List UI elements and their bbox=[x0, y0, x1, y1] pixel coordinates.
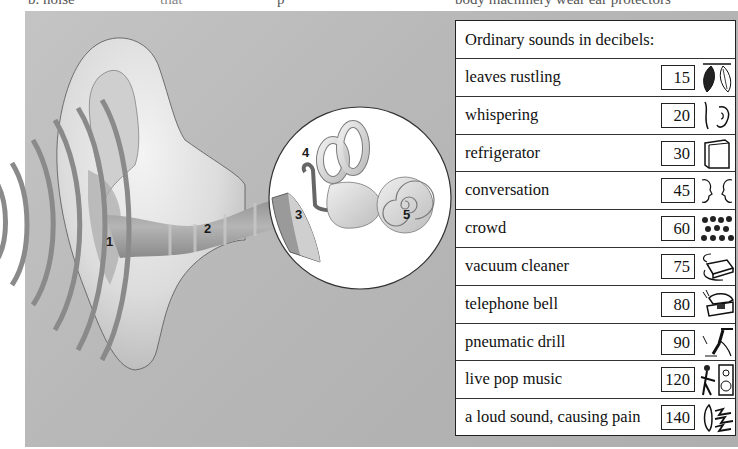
label-4-ossicles: 4 bbox=[302, 145, 309, 160]
vacuum-cleaner-icon bbox=[699, 250, 735, 283]
label-3-eardrum: 3 bbox=[295, 207, 302, 222]
inner-ear-magnified bbox=[269, 107, 451, 289]
sound-label: whispering bbox=[465, 97, 538, 133]
decibel-value: 15 bbox=[661, 65, 695, 90]
telephone-icon bbox=[699, 288, 735, 321]
decibel-value: 45 bbox=[661, 178, 695, 203]
speaker-guitarist-icon bbox=[699, 363, 735, 396]
table-row: pneumatic drill 90 bbox=[456, 324, 735, 362]
sound-label: conversation bbox=[465, 172, 549, 208]
sound-label: telephone bell bbox=[465, 286, 558, 322]
leaves-icon bbox=[699, 61, 735, 94]
table-row: crowd 60 bbox=[456, 210, 735, 248]
label-1-outer-ear: 1 bbox=[106, 234, 113, 249]
table-row: live pop music 120 bbox=[456, 361, 735, 399]
whisper-ear-icon bbox=[699, 99, 735, 132]
crowd-icon bbox=[699, 212, 735, 245]
pneumatic-drill-icon bbox=[699, 326, 735, 359]
table-row: telephone bell 80 bbox=[456, 286, 735, 324]
table-row: vacuum cleaner 75 bbox=[456, 248, 735, 286]
label-5-cochlea: 5 bbox=[403, 207, 410, 222]
refrigerator-icon bbox=[699, 137, 735, 170]
conversation-faces-icon bbox=[699, 174, 735, 207]
table-row: a loud sound, causing pain 140 bbox=[456, 399, 735, 437]
sound-label: crowd bbox=[465, 210, 506, 246]
table-row: leaves rustling 15 bbox=[456, 59, 735, 97]
table-row: conversation 45 bbox=[456, 172, 735, 210]
decibel-value: 140 bbox=[661, 405, 695, 430]
decibel-value: 75 bbox=[661, 254, 695, 279]
label-2-ear-canal: 2 bbox=[204, 221, 211, 236]
sound-label: leaves rustling bbox=[465, 59, 561, 95]
table-row: whispering 20 bbox=[456, 97, 735, 135]
table-title: Ordinary sounds in decibels: bbox=[456, 21, 735, 59]
table-row: refrigerator 30 bbox=[456, 135, 735, 173]
decibel-value: 60 bbox=[661, 216, 695, 241]
decibel-table: Ordinary sounds in decibels: leaves rust… bbox=[455, 20, 736, 436]
sound-label: refrigerator bbox=[465, 135, 540, 171]
decibel-value: 120 bbox=[661, 367, 695, 392]
sound-label: pneumatic drill bbox=[465, 324, 565, 360]
decibel-value: 30 bbox=[661, 141, 695, 166]
decibel-value: 80 bbox=[661, 292, 695, 317]
pain-ear-icon bbox=[699, 401, 735, 434]
decibel-value: 20 bbox=[661, 103, 695, 128]
outer-ear bbox=[57, 38, 245, 370]
sound-label: vacuum cleaner bbox=[465, 248, 569, 284]
decibel-value: 90 bbox=[661, 330, 695, 355]
sound-label: live pop music bbox=[465, 361, 562, 397]
sound-label: a loud sound, causing pain bbox=[465, 399, 641, 435]
